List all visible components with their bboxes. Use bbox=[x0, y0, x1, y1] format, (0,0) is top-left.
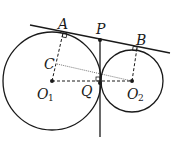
label-b: B bbox=[135, 32, 146, 48]
segment-o2-b bbox=[132, 48, 137, 81]
segment-c-o2 bbox=[57, 64, 132, 81]
label-o1-subscript: 1 bbox=[48, 93, 54, 103]
label-q: Q bbox=[81, 83, 93, 99]
geometry-diagram: A B P C Q O 1 O 2 bbox=[0, 0, 173, 142]
point-o2 bbox=[130, 79, 134, 83]
point-o1 bbox=[50, 79, 54, 83]
label-c: C bbox=[44, 56, 55, 72]
label-a: A bbox=[56, 16, 68, 32]
label-o2-subscript: 2 bbox=[138, 93, 144, 103]
point-p bbox=[98, 38, 102, 42]
label-p: P bbox=[95, 21, 106, 37]
right-angle-marker-a bbox=[62, 33, 67, 38]
point-q bbox=[98, 81, 102, 85]
